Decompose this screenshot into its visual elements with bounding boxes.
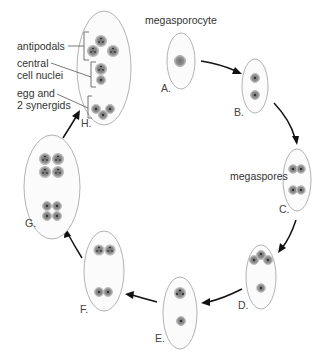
- megagametophyte-diagram: A. megasporocyte B.: [0, 0, 326, 360]
- central-cell-label-line1: central: [17, 57, 49, 69]
- stage-label-a: A.: [161, 82, 171, 94]
- stage-label-f: F.: [80, 303, 88, 315]
- stage-label-b: B.: [234, 106, 244, 118]
- stage-label-e: E.: [155, 332, 165, 344]
- arrow-g-to-h: [63, 110, 80, 138]
- arrow-a-to-b: [201, 61, 242, 74]
- stage-c: C.: [279, 149, 311, 215]
- stage-f: F.: [80, 231, 124, 315]
- stage-label-c: C.: [279, 203, 290, 215]
- nucleus-three-dot: [175, 288, 186, 299]
- antipodals-label: antipodals: [17, 40, 65, 52]
- arrow-c-to-d: [278, 220, 296, 253]
- stage-label-g: G.: [25, 217, 36, 229]
- nucleus: [251, 74, 260, 83]
- stage-g: G.: [24, 135, 80, 239]
- nucleus: [251, 91, 260, 100]
- stage-d: D.: [238, 245, 276, 311]
- stage-a: A.: [161, 33, 195, 94]
- cell-outline: [84, 231, 124, 311]
- stage-label-d: D.: [238, 299, 249, 311]
- megasporocyte-nucleus: [175, 56, 186, 67]
- arrow-d-to-e: [201, 289, 242, 306]
- stage-label-h: H.: [81, 117, 92, 129]
- megasporocyte-label: megasporocyte: [145, 14, 217, 26]
- megaspores-label: megaspores: [230, 170, 288, 182]
- stage-b: B.: [234, 59, 268, 118]
- arrow-e-to-f: [125, 291, 157, 302]
- cell-outline: [242, 59, 268, 113]
- nucleus: [177, 317, 186, 326]
- stage-h: H.: [77, 11, 131, 129]
- egg-label-line2: 2 synergids: [17, 99, 71, 111]
- arrow-b-to-c: [274, 103, 299, 145]
- nucleus: [257, 284, 266, 293]
- stage-e: E.: [155, 277, 197, 349]
- central-cell-label-line2: cell nuclei: [17, 69, 63, 81]
- egg-label-line1: egg and: [17, 87, 55, 99]
